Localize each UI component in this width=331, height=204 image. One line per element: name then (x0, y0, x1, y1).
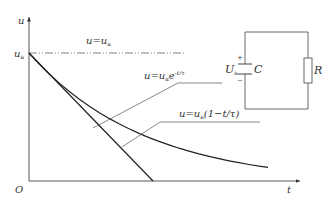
plus-sign: + (237, 55, 243, 62)
x-axis-label: t (287, 185, 291, 195)
diagram-canvas (0, 0, 331, 204)
exponential-label: u=uae-t/τ (144, 70, 185, 82)
linear-label: u=ua(1−t/τ) (179, 109, 239, 120)
y-axis-label: u (18, 16, 24, 26)
rc-circuit (238, 32, 312, 109)
ua-intercept-label: ua (14, 49, 24, 60)
constant-label: u=ua (86, 36, 111, 47)
capacitor-label: C (254, 64, 262, 75)
exp-leader (93, 83, 222, 128)
origin-label: O (15, 185, 23, 195)
minus-sign: − (237, 78, 243, 85)
source-label: Ua (225, 64, 238, 76)
resistor-label: R (314, 65, 322, 76)
